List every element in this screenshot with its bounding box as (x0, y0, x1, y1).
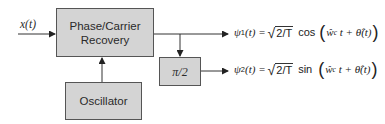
sqrt-arg: 2/T (275, 63, 293, 76)
phase-shift-block: π/2 (159, 57, 201, 86)
psi-symbol: ψ (234, 26, 241, 38)
output-equation-psi2: ψ2 (t) = √2/T sin ( ŵc t + θ̂(t) ) (234, 62, 378, 76)
omega-hat: ŵ (325, 63, 332, 75)
close-paren: ) (373, 25, 379, 39)
sqrt-term: √2/T (268, 63, 294, 76)
trig-func: cos (298, 26, 315, 38)
theta-arg: (t) (360, 63, 370, 75)
phase-carrier-recovery-block: Phase/Carrier Recovery (56, 8, 154, 57)
omega-hat: ŵ (326, 26, 333, 38)
pcr-line1: Phase/Carrier (70, 19, 141, 33)
pcr-line2: Recovery (70, 33, 141, 47)
trig-func: sin (298, 63, 312, 75)
sqrt-term: √2/T (268, 26, 294, 39)
output-equation-psi1: ψ1 (t) = √2/T cos ( ŵc t + θ̂(t) ) (234, 25, 380, 39)
phase-shift-label: π/2 (172, 65, 187, 79)
open-paren: ( (319, 25, 325, 39)
close-paren: ) (371, 62, 377, 76)
oscillator-label: Oscillator (80, 94, 128, 108)
psi-arg: (t) = (245, 63, 266, 75)
psi-symbol: ψ (234, 63, 241, 75)
oscillator-block: Oscillator (65, 82, 142, 120)
theta-arg: (t) (361, 26, 371, 38)
psi-arg: (t) = (245, 26, 266, 38)
input-signal-label: x(t) (20, 18, 36, 30)
sqrt-arg: 2/T (275, 26, 293, 39)
inner-rest: t + (337, 26, 356, 38)
open-paren: ( (318, 62, 324, 76)
inner-rest: t + (336, 63, 355, 75)
